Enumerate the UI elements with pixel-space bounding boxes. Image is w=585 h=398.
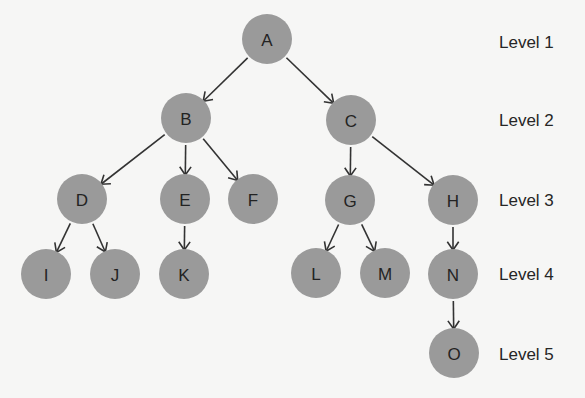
level-label-5: Level 5: [499, 345, 554, 365]
level-label-2: Level 2: [499, 111, 554, 131]
nodes-group: ABCDEFGHIJKLMNO: [21, 14, 479, 378]
edge-c-h: [372, 137, 434, 186]
node-label: G: [343, 192, 356, 211]
node-label: N: [447, 266, 459, 285]
node-label: J: [111, 266, 120, 285]
edge-e-k: [179, 226, 190, 250]
tree-node-g: G: [325, 175, 375, 225]
node-label: D: [76, 191, 88, 210]
level-label-4: Level 4: [499, 265, 554, 285]
node-label: C: [345, 112, 357, 131]
node-label: H: [447, 192, 459, 211]
tree-node-a: A: [242, 14, 292, 64]
node-label: L: [311, 265, 320, 284]
tree-node-l: L: [291, 248, 341, 298]
edge-d-j: [93, 224, 107, 252]
tree-node-c: C: [326, 95, 376, 145]
edge-d-i: [55, 223, 70, 252]
edge-n-o: [448, 301, 459, 329]
node-label: A: [261, 31, 273, 50]
level-label-3: Level 3: [499, 191, 554, 211]
node-label: I: [44, 266, 49, 285]
tree-diagram: ABCDEFGHIJKLMNO: [0, 0, 585, 398]
edge-b-e: [180, 145, 191, 175]
edge-b-d: [101, 135, 165, 185]
node-label: M: [378, 265, 392, 284]
tree-node-h: H: [428, 175, 478, 225]
edge-a-c: [286, 58, 333, 104]
node-label: E: [179, 191, 190, 210]
edge-a-b: [203, 58, 247, 101]
tree-node-k: K: [159, 249, 209, 299]
tree-node-j: J: [90, 249, 140, 299]
edge-g-l: [324, 224, 338, 251]
tree-node-i: I: [21, 249, 71, 299]
edge-b-f: [203, 139, 237, 181]
node-label: F: [248, 191, 258, 210]
tree-node-b: B: [161, 93, 211, 143]
edge-g-m: [362, 224, 377, 251]
tree-node-d: D: [57, 174, 107, 224]
node-label: K: [178, 266, 190, 285]
tree-node-m: M: [360, 248, 410, 298]
tree-node-e: E: [160, 174, 210, 224]
tree-node-n: N: [428, 249, 478, 299]
tree-node-f: F: [228, 174, 278, 224]
node-label: O: [447, 345, 460, 364]
edge-h-n: [447, 227, 458, 250]
node-label: B: [180, 110, 191, 129]
level-label-1: Level 1: [499, 33, 554, 53]
tree-node-o: O: [429, 328, 479, 378]
edge-c-g: [345, 147, 356, 176]
